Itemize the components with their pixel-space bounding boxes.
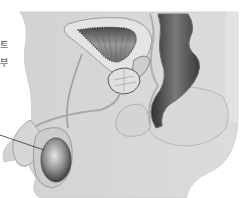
pelvic-anatomy-illustration — [0, 0, 244, 198]
label-fragment-2: 부 — [0, 58, 8, 68]
testis — [41, 138, 71, 182]
label-fragment-1: 트 — [0, 40, 8, 50]
